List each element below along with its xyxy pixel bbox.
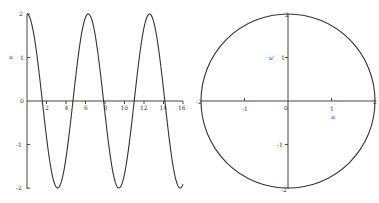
time-series-plot: 2 1 0 -1 -2 u 2 4 6 8 10 12 [9, 10, 186, 191]
left-y-label: u [9, 53, 13, 60]
svg-text:16: 16 [178, 104, 186, 111]
left-ytick-0: 0 [20, 97, 24, 104]
right-origin: 0 [284, 104, 288, 111]
right-x-label: u [331, 113, 335, 120]
left-ytick-2: 2 [19, 10, 23, 17]
svg-text:2: 2 [45, 104, 49, 111]
right-y-label: u' [269, 54, 275, 61]
chart-figure: 2 1 0 -1 -2 u 2 4 6 8 10 12 [0, 0, 379, 203]
right-xtick-m1: -1 [242, 105, 248, 112]
svg-text:12: 12 [140, 104, 148, 111]
phase-portrait-plot: -2 -1 0 1 2 u 2 1 -1 -2 u' [196, 11, 377, 193]
svg-text:6: 6 [84, 104, 88, 111]
right-ytick-m1: -1 [277, 141, 283, 148]
chart-svg: 2 1 0 -1 -2 u 2 4 6 8 10 12 [0, 0, 379, 203]
right-ytick-m2: -2 [281, 186, 287, 193]
left-ytick-m1: -1 [16, 141, 22, 148]
svg-text:10: 10 [121, 104, 129, 111]
left-ytick-m2: -2 [16, 184, 22, 191]
right-xtick-1: 1 [330, 105, 334, 112]
left-ytick-1: 1 [20, 54, 24, 61]
right-ytick-1: 1 [281, 54, 285, 61]
svg-text:4: 4 [65, 104, 69, 111]
